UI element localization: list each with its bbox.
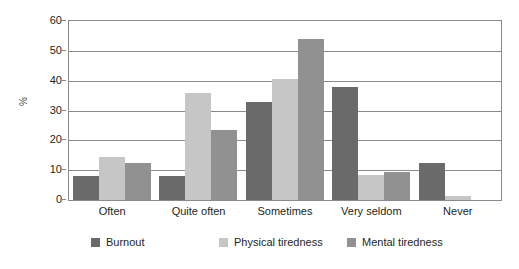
x-tick-label: Never bbox=[415, 205, 501, 217]
bars-layer bbox=[69, 21, 501, 200]
x-tick-label: Sometimes bbox=[242, 205, 328, 217]
bar bbox=[384, 172, 410, 200]
y-tick-label: 60 bbox=[6, 14, 62, 26]
legend-label: Physical tiredness bbox=[234, 236, 323, 248]
y-tick-mark bbox=[60, 20, 66, 21]
bar bbox=[99, 157, 125, 200]
legend-swatch-icon bbox=[219, 238, 228, 247]
bar bbox=[73, 176, 99, 200]
y-tick-label: 50 bbox=[6, 44, 62, 56]
y-tick-mark bbox=[60, 80, 66, 81]
bar bbox=[419, 163, 445, 200]
bar bbox=[159, 176, 185, 200]
bar-group bbox=[155, 21, 241, 200]
y-tick-label: 10 bbox=[6, 163, 62, 175]
x-tick-label: Quite often bbox=[155, 205, 241, 217]
y-axis: 0102030405060 bbox=[0, 20, 62, 201]
bar bbox=[358, 175, 384, 200]
y-tick-mark bbox=[60, 199, 66, 200]
legend-swatch-icon bbox=[91, 238, 100, 247]
y-tick-mark bbox=[60, 110, 66, 111]
bar-group bbox=[328, 21, 414, 200]
bar bbox=[272, 79, 298, 200]
y-tick-label: 30 bbox=[6, 104, 62, 116]
y-tick-label: 20 bbox=[6, 133, 62, 145]
y-tick-mark bbox=[60, 50, 66, 51]
bar-group bbox=[242, 21, 328, 200]
bar bbox=[185, 93, 211, 200]
y-tick-mark bbox=[60, 139, 66, 140]
bar-chart: % 0102030405060 OftenQuite oftenSometime… bbox=[0, 0, 519, 269]
legend-label: Burnout bbox=[106, 236, 145, 248]
bar bbox=[445, 196, 471, 200]
legend-item: Burnout bbox=[91, 236, 145, 248]
bar bbox=[125, 163, 151, 200]
bar-group bbox=[69, 21, 155, 200]
x-tick-label: Often bbox=[69, 205, 155, 217]
bar-group bbox=[415, 21, 501, 200]
y-tick-label: 40 bbox=[6, 74, 62, 86]
bar bbox=[211, 130, 237, 200]
y-tick-label: 0 bbox=[6, 193, 62, 205]
y-tick-mark bbox=[60, 169, 66, 170]
legend-item: Physical tiredness bbox=[219, 236, 323, 248]
bar bbox=[246, 102, 272, 200]
bar bbox=[332, 87, 358, 200]
legend-label: Mental tiredness bbox=[362, 236, 443, 248]
x-axis: OftenQuite oftenSometimesVery seldomNeve… bbox=[69, 205, 501, 223]
legend-swatch-icon bbox=[347, 238, 356, 247]
chart-legend: BurnoutPhysical tirednessMental tirednes… bbox=[69, 236, 501, 256]
bar bbox=[298, 39, 324, 200]
x-tick-label: Very seldom bbox=[328, 205, 414, 217]
legend-item: Mental tiredness bbox=[347, 236, 443, 248]
